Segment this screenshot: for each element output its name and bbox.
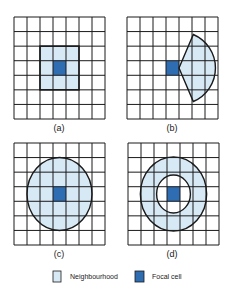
neighbourhood-area: [179, 34, 215, 101]
caption-c: (c): [54, 249, 65, 259]
focal-cell: [53, 61, 66, 76]
legend-neighbourhood-label: Neighbourhood: [70, 273, 118, 281]
caption-a: (a): [54, 123, 65, 133]
panel-b-wedge-neighbourhood: [127, 17, 218, 119]
focal-cell: [167, 187, 180, 202]
legend-focal-cell-label: Focal cell: [152, 273, 182, 280]
legend-focal-cell-swatch: [135, 271, 144, 282]
focal-cell: [53, 187, 66, 202]
caption-d: (d): [167, 249, 178, 259]
panel-d-annulus-neighbourhood: [128, 143, 219, 245]
caption-b: (b): [167, 123, 178, 133]
legend: Neighbourhood Focal cell: [53, 271, 182, 282]
panel-c-circle-neighbourhood: [14, 143, 105, 245]
neighbourhood-diagram: (a) (b) (c) (d) Neighbourhood Focal cell: [0, 0, 234, 301]
panel-a-square-neighbourhood: [14, 17, 105, 119]
legend-neighbourhood-swatch: [53, 271, 61, 282]
focal-cell: [166, 61, 179, 76]
